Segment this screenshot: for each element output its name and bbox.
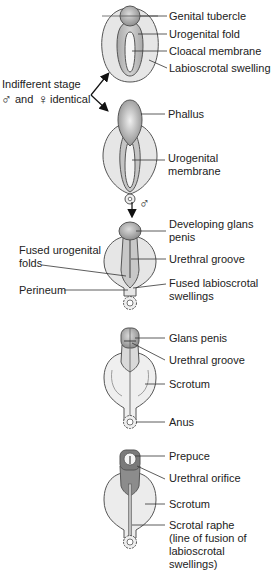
label-swellings: swellings): [169, 558, 217, 570]
label-urethral-orifice: Urethral orifice: [169, 472, 241, 484]
label-developing-glans: Developing glans: [169, 218, 254, 230]
scrotal-raphe-line: [129, 484, 132, 538]
note-indifferent-stage: Indifferent stage: [2, 78, 81, 90]
stage-indifferent-late: [103, 100, 157, 204]
label-labioscrotal: labioscrotal: [169, 545, 225, 557]
label-phallus: Phallus: [168, 108, 205, 120]
stage-male-late: [104, 450, 156, 549]
branch-arrow-down: [91, 95, 107, 110]
label-penis: penis: [169, 231, 196, 243]
label-fused-labioscrotal: Fused labioscrotal: [169, 277, 258, 289]
label-scrotum: Scrotum: [169, 498, 210, 510]
label-swellings: swellings: [169, 290, 214, 302]
cloacal-membrane-shape: [125, 32, 135, 72]
anus-inner: [127, 419, 133, 425]
label-anus: Anus: [169, 416, 195, 428]
anus-inner: [128, 197, 132, 201]
label-labioscrotal-swelling: Labioscrotal swelling: [169, 62, 271, 74]
anus-inner: [127, 539, 133, 545]
label-folds: folds: [19, 257, 43, 269]
note-identical: identical: [50, 93, 90, 105]
label-membrane: membrane: [168, 165, 221, 177]
label-prepuce: Prepuce: [169, 450, 210, 462]
label-scrotum: Scrotum: [169, 378, 210, 390]
label-line-of-fusion: (line of fusion of: [169, 532, 248, 544]
stage-indifferent-early: [102, 6, 159, 82]
label-genital-tubercle: Genital tubercle: [169, 10, 246, 22]
label-scrotal-raphe: Scrotal raphe: [169, 519, 234, 531]
male-symbol-icon: ♂: [1, 91, 12, 107]
indifferent-stage-note: Indifferent stage ♂ and ♀ identical: [1, 74, 108, 110]
label-urethral-groove: Urethral groove: [169, 354, 245, 366]
anus-inner: [127, 300, 133, 306]
note-and: and: [15, 93, 33, 105]
label-cloacal-membrane: Cloacal membrane: [169, 45, 261, 57]
label-fused-urogenital: Fused urogenital: [19, 244, 101, 256]
label-perineum: Perineum: [19, 284, 66, 296]
label-urethral-groove: Urethral groove: [169, 253, 245, 265]
label-urogenital: Urogenital: [168, 152, 218, 164]
branch-arrow-up: [91, 74, 108, 95]
female-symbol-icon: ♀: [38, 91, 49, 107]
urogenital-membrane-shape: [125, 140, 135, 188]
genital-development-diagram: Genital tubercle Urogenital fold Cloacal…: [0, 0, 272, 570]
stage-male-early: [104, 222, 156, 310]
stage-male-mid: [104, 328, 156, 429]
male-symbol-icon: ♂: [139, 195, 150, 211]
label-glans-penis: Glans penis: [169, 332, 228, 344]
label-urogenital-fold: Urogenital fold: [169, 28, 240, 40]
